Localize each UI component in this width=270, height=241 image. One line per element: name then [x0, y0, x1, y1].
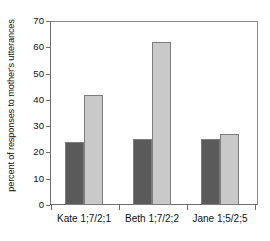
bar [65, 142, 84, 205]
y-axis-tick-label: 40 [20, 95, 44, 105]
y-axis-tick-mark [46, 205, 50, 206]
bar [152, 42, 171, 205]
y-axis-tick-label: 50 [20, 69, 44, 79]
y-axis-tick-mark [46, 47, 50, 48]
y-axis-tick-mark [46, 74, 50, 75]
x-axis-tick-mark [119, 205, 120, 210]
y-axis-tick-label: 60 [20, 42, 44, 52]
y-axis-tick-labels: 010203040506070 [20, 14, 44, 210]
bar-group [65, 21, 103, 205]
bar [220, 134, 239, 205]
x-axis-category-label: Jane 1;5/2;5 [174, 212, 266, 225]
x-axis-tick-mark [187, 205, 188, 210]
y-axis-tick-mark [46, 126, 50, 127]
y-axis-tick-label: 20 [20, 147, 44, 157]
y-axis-tick-mark [46, 21, 50, 22]
y-axis-tick-mark [46, 100, 50, 101]
y-axis-tick-mark [46, 152, 50, 153]
y-axis-tick-mark [46, 179, 50, 180]
x-axis-tick-mark [255, 205, 256, 210]
bar-chart: percent of responses to mother's utteran… [0, 0, 270, 241]
y-axis-tick-label: 70 [20, 16, 44, 26]
y-axis-tick-label: 30 [20, 121, 44, 131]
bar [84, 95, 103, 205]
bar-group [201, 21, 239, 205]
x-axis-tick-mark [51, 205, 52, 210]
bar-group [133, 21, 171, 205]
y-axis-tick-label: 10 [20, 174, 44, 184]
y-axis-title: percent of responses to mother's utteran… [2, 3, 20, 208]
bar [201, 139, 220, 205]
bars-layer [51, 21, 257, 205]
y-axis-tick-label: 0 [20, 200, 44, 210]
bar [133, 139, 152, 205]
